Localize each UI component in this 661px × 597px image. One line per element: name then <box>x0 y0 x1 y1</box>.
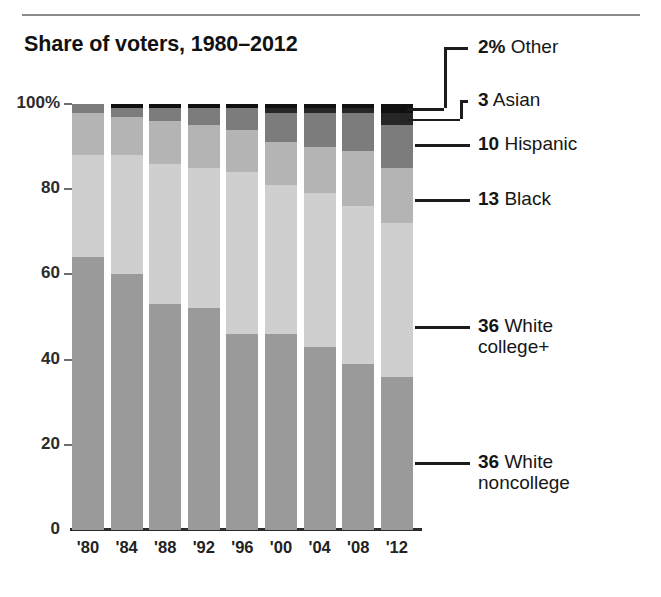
callout-label: 13 Black <box>478 188 551 209</box>
callout-leader-line <box>415 326 470 329</box>
callout-leader-line <box>407 108 444 111</box>
callout-leader-line <box>460 100 468 103</box>
callout-value: 13 <box>478 188 499 209</box>
callout-leader-line <box>460 100 463 119</box>
callout-leader-line <box>415 144 470 147</box>
callout-label: 3 Asian <box>478 89 540 110</box>
callout-label: 36 White college+ <box>478 315 628 358</box>
chart-figure: Share of voters, 1980–2012 100%806040200… <box>0 0 661 597</box>
callout-label: 10 Hispanic <box>478 133 577 154</box>
callout-leader-line <box>407 119 460 122</box>
callout-name: Hispanic <box>504 133 577 154</box>
callout-name: Asian <box>493 89 541 110</box>
callout-label: 36 White noncollege <box>478 451 628 494</box>
callout-value: 36 <box>478 315 499 336</box>
callout-value: 2% <box>478 36 505 57</box>
callout-leader-line <box>444 47 468 50</box>
callout-value: 3 <box>478 89 489 110</box>
callout-value: 36 <box>478 451 499 472</box>
callout-value: 10 <box>478 133 499 154</box>
callout-label: 2% Other <box>478 36 558 57</box>
callout-leader-line <box>415 462 470 465</box>
callout-name: Other <box>511 36 559 57</box>
callout-leader-line <box>415 199 470 202</box>
callout-labels-group: 2% Other3 Asian10 Hispanic13 Black36 Whi… <box>0 0 661 597</box>
callout-leader-line <box>444 47 447 108</box>
callout-name: Black <box>504 188 550 209</box>
